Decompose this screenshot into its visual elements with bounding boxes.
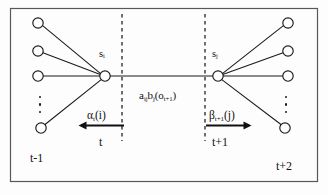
state-label-si-subscript: i xyxy=(103,52,105,59)
ellipsis-dot xyxy=(285,111,287,113)
state-label-si: si xyxy=(99,49,105,60)
edge-right-2 xyxy=(223,53,283,75)
ellipsis-dot xyxy=(285,96,287,98)
edge-right-1 xyxy=(222,26,283,74)
state-node-left-2 xyxy=(33,46,43,56)
transition-obs-subscript: t+1 xyxy=(164,95,173,102)
beta-argument: (j) xyxy=(224,109,235,121)
state-label-sj-subscript: j xyxy=(216,52,218,59)
transition-obs-open: (o xyxy=(155,89,164,101)
backward-arrow xyxy=(206,122,252,130)
ellipsis-dot xyxy=(285,103,287,105)
transition-obs-close: ) xyxy=(173,89,177,101)
forward-variable-label: αt(i) xyxy=(87,110,106,123)
state-node-hub-right xyxy=(213,71,223,81)
backward-variable-label: βt+1(j) xyxy=(209,110,235,123)
alpha-argument: (i) xyxy=(95,109,106,121)
edge-left-2 xyxy=(43,53,100,75)
ellipsis-dot xyxy=(39,96,41,98)
state-node-left-4 xyxy=(36,123,46,133)
state-node-right-3 xyxy=(283,71,293,81)
state-node-right-2 xyxy=(283,46,293,56)
state-node-left-3 xyxy=(33,71,43,81)
state-node-right-1 xyxy=(283,18,293,28)
forward-arrow xyxy=(79,122,125,130)
transition-probability-label: aijbj(ot+1) xyxy=(139,90,176,102)
edge-left-1 xyxy=(43,26,101,74)
hmm-trellis-figure: si sj aijbj(ot+1) αt(i) βt+1(j) t t+1 t-… xyxy=(0,0,328,195)
state-node-left-1 xyxy=(33,18,43,28)
ellipsis-dot xyxy=(39,111,41,113)
time-label-t-minus-1: t-1 xyxy=(30,152,43,164)
right-states-ellipsis xyxy=(284,96,288,113)
time-label-t-plus-1: t+1 xyxy=(212,136,228,148)
time-label-t: t xyxy=(99,136,102,148)
state-node-right-4 xyxy=(280,123,290,133)
left-states-ellipsis xyxy=(38,96,42,113)
state-label-sj: sj xyxy=(212,49,218,60)
beta-subscript: t+1 xyxy=(215,115,224,123)
time-label-t-plus-2: t+2 xyxy=(276,160,292,172)
ellipsis-dot xyxy=(39,103,41,105)
state-node-hub-left xyxy=(100,71,110,81)
